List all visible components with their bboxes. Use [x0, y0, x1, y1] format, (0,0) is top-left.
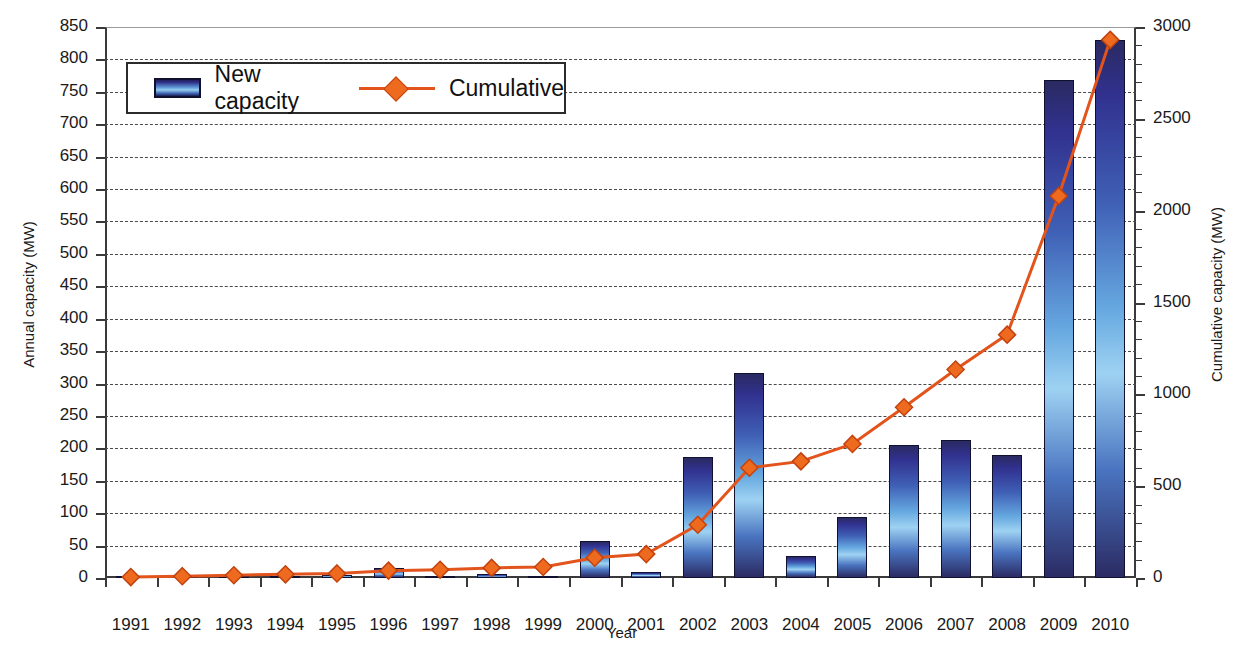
x-axis-tick [157, 578, 159, 587]
cumulative-marker-2000 [586, 549, 603, 566]
x-axis-tick [517, 578, 519, 587]
cumulative-marker-1997 [432, 561, 449, 578]
x-axis-tick [724, 578, 726, 587]
y-axis-left-tick [96, 221, 105, 223]
cumulative-marker-2004 [792, 453, 809, 470]
y-axis-right-minor-tick [1136, 523, 1142, 524]
y-axis-left-tick [96, 189, 105, 191]
cumulative-marker-1995 [328, 565, 345, 582]
x-axis-tick [311, 578, 313, 587]
legend-bar-swatch-icon [154, 78, 201, 98]
y-axis-right-minor-tick [1136, 64, 1142, 65]
legend-line-swatch-icon [359, 77, 435, 99]
y-axis-left-tick-label: 550 [28, 210, 88, 230]
y-axis-right-tick-label: 3000 [1153, 16, 1213, 36]
chart-figure: Annual capacity (MW) Cumulative capacity… [0, 0, 1244, 657]
x-axis-tick [827, 578, 829, 587]
cumulative-marker-2001 [638, 546, 655, 563]
y-axis-right-minor-tick [1136, 247, 1142, 248]
y-axis-left-tick-label: 650 [28, 146, 88, 166]
y-axis-right-tick-label: 500 [1153, 475, 1213, 495]
y-axis-right-minor-tick [1136, 413, 1142, 414]
y-axis-right-minor-tick [1136, 266, 1142, 267]
y-axis-left-tick [96, 59, 105, 61]
y-axis-left-tick-label: 350 [28, 340, 88, 360]
y-axis-left-tick-label: 850 [28, 16, 88, 36]
x-axis-tick [621, 578, 623, 587]
y-axis-left-tick-label: 0 [28, 567, 88, 587]
x-axis-tick [260, 578, 262, 587]
y-axis-left-tick-label: 100 [28, 502, 88, 522]
x-axis-tick [105, 578, 107, 587]
y-axis-left-tick-label: 750 [28, 81, 88, 101]
x-axis-tick [569, 578, 571, 587]
y-axis-left-tick [96, 124, 105, 126]
y-axis-left-tick-label: 150 [28, 470, 88, 490]
y-axis-left-tick-label: 500 [28, 243, 88, 263]
y-axis-right-minor-tick [1136, 45, 1142, 46]
y-axis-left-tick-label: 250 [28, 405, 88, 425]
y-axis-left-tick-label: 450 [28, 275, 88, 295]
x-axis-tick [466, 578, 468, 587]
y-axis-right-minor-tick [1136, 321, 1142, 322]
y-axis-left-tick [96, 319, 105, 321]
y-axis-left-tick [96, 351, 105, 353]
x-axis-tick [1136, 578, 1138, 587]
legend-item-cumulative: Cumulative [315, 75, 564, 102]
y-axis-right-minor-tick [1136, 156, 1142, 157]
y-axis-right-minor-tick [1136, 505, 1142, 506]
y-axis-right-tick-label: 2000 [1153, 200, 1213, 220]
cumulative-marker-2008 [999, 326, 1016, 343]
y-axis-right-minor-tick [1136, 137, 1142, 138]
x-axis-tick [363, 578, 365, 587]
y-axis-right-minor-tick [1136, 358, 1142, 359]
y-axis-right-tick-label: 2500 [1153, 108, 1213, 128]
y-axis-right-minor-tick [1136, 284, 1142, 285]
x-axis-tick [672, 578, 674, 587]
y-axis-right-minor-tick [1136, 560, 1142, 561]
y-axis-left-tick [96, 384, 105, 386]
cumulative-marker-1998 [483, 559, 500, 576]
cumulative-marker-1994 [277, 566, 294, 583]
y-axis-right-tick-label: 1000 [1153, 383, 1213, 403]
y-axis-left-tick [96, 27, 105, 29]
cumulative-marker-2010 [1102, 31, 1119, 48]
y-axis-right-tick [1136, 119, 1145, 121]
y-axis-left-tick [96, 578, 105, 580]
x-axis-tick [878, 578, 880, 587]
x-axis-tick [1033, 578, 1035, 587]
legend-label-new-capacity: New capacity [215, 61, 315, 115]
y-axis-left-tick [96, 513, 105, 515]
y-axis-right-minor-tick [1136, 100, 1142, 101]
cumulative-marker-1991 [122, 569, 139, 586]
y-axis-right-minor-tick [1136, 468, 1142, 469]
x-axis-tick [208, 578, 210, 587]
y-axis-right-minor-tick [1136, 229, 1142, 230]
x-axis-tick [414, 578, 416, 587]
x-axis-tick [981, 578, 983, 587]
y-axis-right-minor-tick [1136, 431, 1142, 432]
y-axis-left-tick [96, 546, 105, 548]
x-axis-tick-label-2010: 2010 [1075, 615, 1145, 635]
legend-diamond-marker-icon [383, 76, 408, 101]
y-axis-left-tick-label: 800 [28, 48, 88, 68]
y-axis-right-minor-tick [1136, 449, 1142, 450]
y-axis-left-tick-label: 50 [28, 535, 88, 555]
x-axis-tick [775, 578, 777, 587]
y-axis-left-tick-label: 600 [28, 178, 88, 198]
legend-item-new-capacity: New capacity [128, 61, 315, 115]
y-axis-right-minor-tick [1136, 339, 1142, 340]
y-axis-right-tick [1136, 211, 1145, 213]
y-axis-right-tick [1136, 303, 1145, 305]
y-axis-left-tick [96, 157, 105, 159]
y-axis-left-tick-label: 700 [28, 113, 88, 133]
y-axis-left-tick-label: 400 [28, 308, 88, 328]
x-axis-tick [930, 578, 932, 587]
y-axis-right-tick-label: 1500 [1153, 292, 1213, 312]
y-axis-right-tick [1136, 486, 1145, 488]
cumulative-marker-1993 [225, 567, 242, 584]
y-axis-left-tick-label: 200 [28, 437, 88, 457]
cumulative-line-path [131, 40, 1110, 577]
y-axis-right-minor-tick [1136, 541, 1142, 542]
y-axis-right-minor-tick [1136, 82, 1142, 83]
